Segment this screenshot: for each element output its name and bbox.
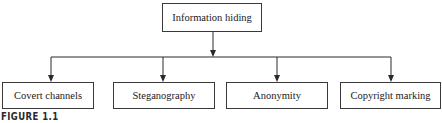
node-label: Anonymity	[253, 90, 301, 101]
node-steganography: Steganography	[113, 82, 215, 109]
arrow-down-icon	[160, 75, 166, 82]
node-label: Copyright marking	[350, 90, 430, 101]
node-label: Steganography	[133, 90, 196, 101]
root-arrow-icon	[210, 50, 216, 57]
figure-caption: FIGURE 1.1	[1, 111, 58, 122]
arrow-down-icon	[274, 75, 280, 82]
node-information-hiding: Information hiding	[162, 3, 262, 32]
node-anonymity: Anonymity	[226, 82, 328, 109]
node-copyright-marking: Copyright marking	[340, 82, 441, 109]
node-label: Information hiding	[172, 12, 252, 23]
node-covert-channels: Covert channels	[2, 82, 94, 109]
node-label: Covert channels	[14, 90, 82, 101]
arrow-down-icon	[388, 75, 394, 82]
arrow-down-icon	[48, 75, 54, 82]
hierarchy-diagram: Information hiding Covert channels Stega…	[0, 0, 442, 123]
